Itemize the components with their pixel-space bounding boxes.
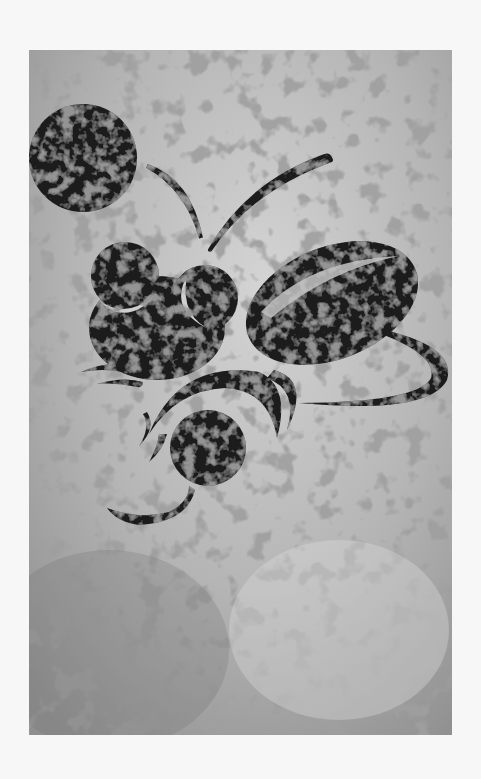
firefly-illustration xyxy=(29,50,452,735)
moon-circle xyxy=(29,104,137,212)
abdomen-glow-circle xyxy=(170,410,246,486)
artwork-panel xyxy=(29,50,452,735)
